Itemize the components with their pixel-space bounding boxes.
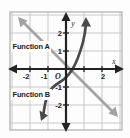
coordinate-plane: -2 -1 2 2 1 -1 -2 O x y: [0, 0, 130, 138]
function-b-label: Function B: [11, 89, 52, 100]
y-tick-label-2: 2: [58, 29, 62, 38]
y-tick-label-1: 1: [58, 47, 62, 56]
y-tick-label--1: -1: [55, 83, 62, 92]
x-axis-label: x: [111, 57, 116, 66]
x-tick-label--2: -2: [23, 72, 30, 81]
graph-figure: -2 -1 2 2 1 -1 -2 O x y Function A Funct…: [0, 0, 130, 138]
y-tick-label--2: -2: [55, 101, 62, 110]
origin-label: O: [55, 72, 61, 81]
y-axis-label: y: [70, 19, 75, 28]
x-tick-label-2: 2: [101, 72, 105, 81]
x-tick-label--1: -1: [41, 72, 48, 81]
function-a-label: Function A: [11, 41, 51, 52]
